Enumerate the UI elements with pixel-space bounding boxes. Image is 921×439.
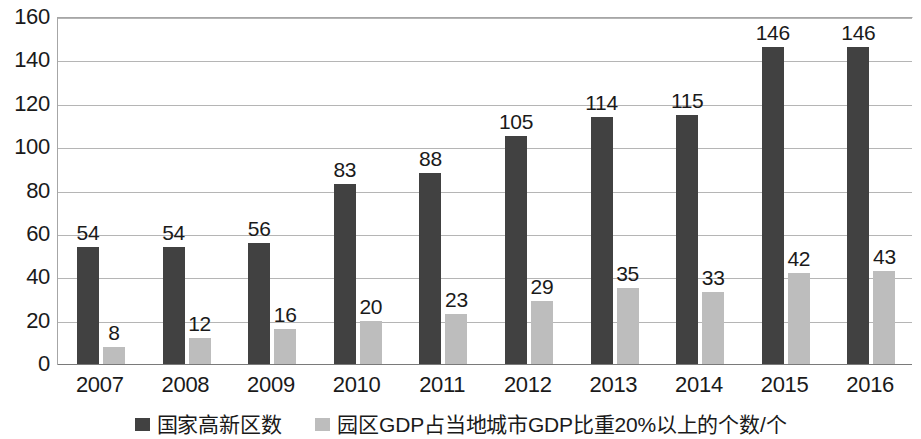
bar-group: 8320 (315, 17, 401, 364)
bar-value-label: 42 (787, 247, 810, 270)
bar-group: 14642 (743, 17, 829, 364)
bar[interactable]: 33 (702, 292, 724, 364)
bar-group: 548 (58, 17, 144, 364)
bar-groups: 5485412561683208823105291143511533146421… (58, 18, 912, 365)
bar-group: 11533 (657, 17, 743, 364)
bar[interactable]: 105 (505, 136, 527, 364)
legend-item[interactable]: 国家高新区数 (135, 413, 282, 437)
bar-group: 10529 (486, 17, 572, 364)
bar[interactable]: 83 (334, 184, 356, 364)
bar-value-label: 54 (162, 221, 185, 244)
bar[interactable]: 20 (360, 321, 382, 364)
bar[interactable]: 29 (531, 301, 553, 364)
y-axis-tick-label: 0 (0, 353, 50, 375)
bar-value-label: 114 (585, 91, 618, 114)
bar-value-label: 8 (108, 321, 119, 344)
bar-chart: 020406080100120140160 548541256168320882… (0, 0, 921, 439)
x-axis-tick-label: 2008 (143, 372, 229, 398)
legend-swatch-icon (135, 418, 150, 431)
legend-swatch-icon (315, 418, 330, 431)
x-axis-tick-label: 2013 (571, 372, 657, 398)
bar-value-label: 105 (499, 110, 533, 133)
bar-value-label: 23 (445, 288, 468, 311)
bar-value-label: 83 (333, 158, 356, 181)
legend-label: 园区GDP占当地城市GDP比重20%以上的个数/个 (337, 413, 786, 437)
bar-value-label: 146 (841, 21, 875, 44)
y-axis-tick-label: 20 (0, 310, 50, 332)
bar[interactable]: 54 (163, 247, 185, 364)
bar-value-label: 146 (756, 21, 790, 44)
bar-value-label: 54 (77, 221, 100, 244)
bar-value-label: 16 (274, 303, 297, 326)
y-axis: 020406080100120140160 (0, 0, 50, 375)
legend: 国家高新区数园区GDP占当地城市GDP比重20%以上的个数/个 (0, 410, 921, 439)
bar-value-label: 29 (531, 275, 554, 298)
x-axis-tick-label: 2014 (656, 372, 742, 398)
x-axis-tick-label: 2016 (827, 372, 913, 398)
x-axis: 2007200820092010201120122013201420152016 (57, 372, 913, 402)
bar-group: 5616 (229, 17, 315, 364)
y-axis-tick-label: 80 (0, 180, 50, 202)
bar-value-label: 56 (248, 217, 271, 240)
bar[interactable]: 56 (248, 243, 270, 364)
bar-group: 14643 (828, 17, 914, 364)
legend-item[interactable]: 园区GDP占当地城市GDP比重20%以上的个数/个 (315, 413, 786, 437)
plot-area: 5485412561683208823105291143511533146421… (57, 17, 913, 365)
x-axis-tick-label: 2011 (399, 372, 485, 398)
x-axis-line (58, 364, 912, 365)
y-axis-tick-label: 140 (0, 49, 50, 71)
bar-value-label: 33 (702, 266, 725, 289)
bar-value-label: 35 (616, 262, 639, 285)
bar-value-label: 115 (671, 89, 704, 112)
y-axis-tick-label: 40 (0, 266, 50, 288)
bar-value-label: 20 (359, 295, 382, 318)
bar[interactable]: 23 (445, 314, 467, 364)
bar[interactable]: 114 (591, 117, 613, 364)
bar[interactable]: 146 (762, 47, 784, 364)
y-axis-tick-label: 120 (0, 93, 50, 115)
y-axis-tick-label: 60 (0, 223, 50, 245)
bar-group: 8823 (400, 17, 486, 364)
bar[interactable]: 12 (189, 338, 211, 364)
bar-group: 5412 (144, 17, 230, 364)
bar[interactable]: 35 (617, 288, 639, 364)
bar-group: 11435 (572, 17, 658, 364)
bar[interactable]: 42 (788, 273, 810, 364)
bar-value-label: 43 (873, 245, 896, 268)
bar[interactable]: 146 (847, 47, 869, 364)
y-axis-tick-label: 160 (0, 6, 50, 28)
x-axis-tick-label: 2007 (57, 372, 143, 398)
y-axis-tick-label: 100 (0, 136, 50, 158)
bar[interactable]: 43 (873, 271, 895, 364)
bar[interactable]: 16 (274, 329, 296, 364)
bar[interactable]: 88 (419, 173, 441, 364)
bar[interactable]: 54 (77, 247, 99, 364)
legend-label: 国家高新区数 (157, 413, 282, 437)
bar-value-label: 88 (419, 147, 442, 170)
bar[interactable]: 8 (103, 347, 125, 364)
x-axis-tick-label: 2012 (485, 372, 571, 398)
x-axis-tick-label: 2010 (314, 372, 400, 398)
x-axis-tick-label: 2015 (742, 372, 828, 398)
bar-value-label: 12 (188, 312, 211, 335)
x-axis-tick-label: 2009 (228, 372, 314, 398)
bar[interactable]: 115 (676, 115, 698, 364)
